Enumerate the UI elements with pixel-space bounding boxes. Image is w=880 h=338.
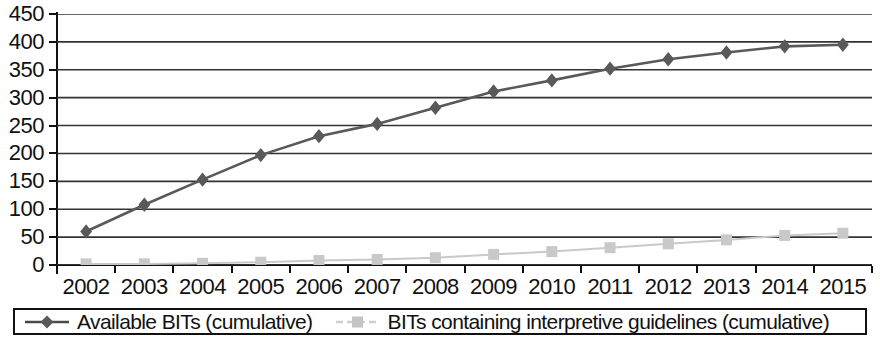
data-point-diamond-marker — [371, 117, 383, 131]
data-point-diamond-marker — [429, 101, 441, 115]
x-axis-tick-label: 2008 — [412, 274, 459, 300]
data-point-square-marker — [197, 258, 208, 265]
y-axis-labels: 050100150200250300350400450 — [0, 0, 50, 280]
x-axis-tick-mark — [696, 266, 698, 273]
data-point-square-marker — [139, 258, 150, 265]
x-axis-tick-mark — [172, 266, 174, 273]
x-axis-tick-mark — [289, 266, 291, 273]
square-marker-icon — [335, 314, 381, 330]
x-axis-tick-mark — [522, 266, 524, 273]
x-axis-tick-mark — [464, 266, 466, 273]
chart-figure: 050100150200250300350400450 200220032004… — [0, 0, 880, 338]
series-line — [86, 45, 843, 232]
legend-item-available-bits[interactable]: Available BITs (cumulative) — [24, 311, 313, 332]
x-axis-tick-label: 2005 — [237, 274, 284, 300]
x-axis-tick-mark — [755, 266, 757, 273]
data-point-square-marker — [663, 238, 674, 249]
data-point-square-marker — [372, 254, 383, 265]
y-axis-tick-label: 50 — [21, 226, 44, 248]
y-axis-tick-mark — [49, 69, 57, 71]
y-axis-tick-label: 250 — [9, 115, 44, 137]
x-axis-labels: 2002200320042005200620072008200920102011… — [0, 274, 880, 304]
plot-area — [57, 14, 872, 265]
x-axis-tick-label: 2013 — [703, 274, 750, 300]
x-axis-tick-mark — [871, 266, 873, 273]
x-axis-tick-label: 2010 — [528, 274, 575, 300]
y-axis-tick-mark — [49, 13, 57, 15]
data-point-diamond-marker — [604, 61, 616, 75]
x-axis-tick-label: 2015 — [819, 274, 866, 300]
x-axis-tick-label: 2006 — [295, 274, 342, 300]
x-axis-tick-mark — [638, 266, 640, 273]
x-axis-tick-label: 2009 — [470, 274, 517, 300]
x-axis-tick-label: 2003 — [121, 274, 168, 300]
x-axis-tick-mark — [580, 266, 582, 273]
data-point-diamond-marker — [313, 129, 325, 143]
data-point-diamond-marker — [546, 73, 558, 87]
y-axis-tick-label: 200 — [9, 142, 44, 164]
y-axis-tick-mark — [49, 152, 57, 154]
chart-canvas — [57, 14, 872, 265]
y-axis-tick-mark — [49, 180, 57, 182]
data-point-square-marker — [81, 258, 92, 265]
data-point-square-marker — [430, 252, 441, 263]
y-axis-tick-mark — [49, 208, 57, 210]
legend-item-guidelines[interactable]: BITs containing interpretive guidelines … — [335, 311, 830, 332]
y-axis-tick-label: 450 — [9, 3, 44, 25]
x-axis-tick-label: 2007 — [354, 274, 401, 300]
x-axis-tick-mark — [231, 266, 233, 273]
x-axis-tick-mark — [347, 266, 349, 273]
data-point-square-marker — [837, 228, 848, 239]
data-point-square-marker — [546, 246, 557, 257]
y-axis-tick-mark — [49, 41, 57, 43]
data-point-diamond-marker — [197, 172, 209, 186]
data-point-square-marker — [721, 234, 732, 245]
y-axis-tick-label: 350 — [9, 59, 44, 81]
x-axis-tick-label: 2011 — [587, 274, 632, 300]
y-axis-tick-mark — [49, 125, 57, 127]
x-axis-tick-label: 2014 — [761, 274, 808, 300]
chart-legend: Available BITs (cumulative) BITs contain… — [13, 308, 867, 335]
data-point-diamond-marker — [721, 45, 733, 59]
x-axis-tick-mark — [813, 266, 815, 273]
data-point-diamond-marker — [662, 52, 674, 66]
y-axis-tick-mark — [49, 97, 57, 99]
data-point-diamond-marker — [837, 37, 849, 51]
x-axis-tick-label: 2012 — [645, 274, 692, 300]
x-axis-tick-mark — [405, 266, 407, 273]
data-point-square-marker — [488, 249, 499, 260]
y-axis-tick-mark — [49, 264, 57, 266]
x-axis-tick-label: 2004 — [179, 274, 226, 300]
data-point-diamond-marker — [255, 148, 267, 162]
data-point-diamond-marker — [488, 84, 500, 98]
data-point-square-marker — [313, 255, 324, 265]
data-point-square-marker — [605, 242, 616, 253]
data-point-square-marker — [779, 230, 790, 241]
y-axis-tick-label: 400 — [9, 31, 44, 53]
x-axis-tick-label: 2002 — [63, 274, 110, 300]
y-axis-tick-mark — [49, 236, 57, 238]
y-axis-tick-label: 0 — [32, 254, 44, 276]
x-axis-tick-mark — [114, 266, 116, 273]
y-axis-tick-label: 100 — [9, 198, 44, 220]
diamond-marker-icon — [24, 314, 70, 330]
legend-label-available-bits: Available BITs (cumulative) — [77, 311, 313, 332]
data-point-square-marker — [255, 257, 266, 265]
legend-label-guidelines: BITs containing interpretive guidelines … — [388, 311, 830, 332]
y-axis-tick-label: 150 — [9, 170, 44, 192]
y-axis-tick-label: 300 — [9, 87, 44, 109]
